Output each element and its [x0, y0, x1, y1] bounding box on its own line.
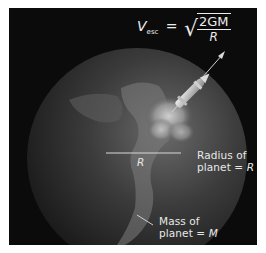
equation-fraction: 2GM R — [197, 13, 231, 44]
velocity-subscript: esc — [147, 28, 159, 36]
fraction-denominator: R — [210, 30, 218, 44]
mass-symbol: M — [209, 227, 218, 239]
mass-label-line1: Mass of — [159, 215, 218, 227]
radius-symbol: R — [247, 161, 254, 173]
radius-label-line1: Radius of — [197, 149, 254, 161]
figure-panel: Vesc = √ 2GM R R Radius of planet = R Ma… — [9, 8, 257, 245]
escape-velocity-equation: Vesc = — [137, 18, 181, 36]
mass-label-line2: planet = — [159, 227, 209, 239]
radius-label: Radius of planet = R — [197, 149, 254, 173]
radius-line-label: R — [137, 156, 144, 168]
equals-sign: = — [166, 18, 178, 34]
velocity-symbol: V — [137, 18, 147, 34]
radius-label-line2: planet = — [197, 161, 247, 173]
radical-sign: √ — [184, 16, 198, 42]
mass-label: Mass of planet = M — [159, 215, 218, 239]
fraction-numerator: 2GM — [197, 15, 231, 30]
